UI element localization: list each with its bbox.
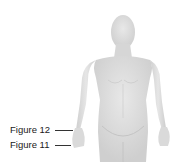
leader-line-figure-12 <box>55 130 73 131</box>
head <box>111 15 135 49</box>
leader-line-figure-11 <box>55 145 71 146</box>
neck <box>114 44 132 58</box>
label-figure-11: Figure 11 <box>10 139 49 150</box>
left-arm <box>76 60 96 130</box>
right-hand <box>158 127 170 146</box>
label-figure-12: Figure 12 <box>10 124 50 135</box>
human-body-figure <box>0 0 178 162</box>
left-hand <box>72 128 84 148</box>
right-arm <box>150 60 166 130</box>
